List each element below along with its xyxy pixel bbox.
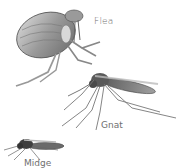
midge-drawing <box>4 139 64 160</box>
insects-drawing: Flea Gnat Midge <box>0 0 187 168</box>
flea-label: Flea <box>94 16 114 26</box>
gnat-label: Gnat <box>101 120 123 130</box>
insect-illustration: Flea Gnat Midge <box>0 0 187 168</box>
midge-label: Midge <box>24 158 52 168</box>
flea-drawing <box>11 5 100 86</box>
